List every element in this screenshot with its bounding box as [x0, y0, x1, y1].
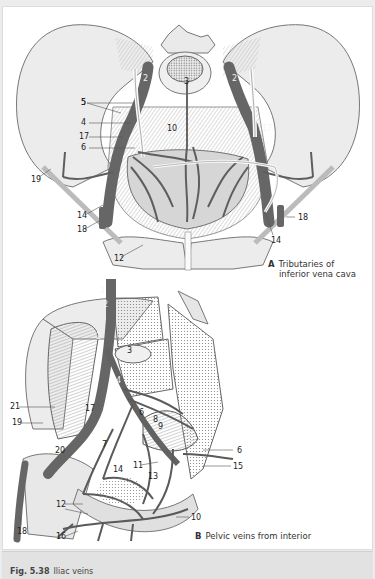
figure-b-title: Pelvic veins from interior: [205, 531, 311, 541]
callout-label: 14: [271, 237, 281, 245]
figure-caption-bar: Fig. 5.38Iliac veins: [2, 551, 373, 579]
pelvis-sagittal-illustration: [3, 279, 374, 551]
callout-label: 4: [116, 377, 121, 385]
figure-b-letter: B: [195, 531, 201, 541]
callout-label: 10: [167, 125, 177, 133]
callout-label: 11: [133, 462, 143, 470]
figure-a-title-line1: Tributaries of: [279, 259, 335, 269]
callout-label: 17: [79, 133, 89, 141]
figure-a-tributaries-ivc: 2235544101717116191418181412 ATributarie…: [3, 7, 374, 279]
callout-label: 2: [143, 75, 148, 83]
callout-label: 3: [184, 78, 189, 86]
callout-label: 2: [96, 333, 101, 341]
callout-label: 10: [191, 514, 201, 522]
callout-label: 3: [127, 347, 132, 355]
callout-label: 16: [56, 533, 66, 541]
pelvis-anterior-illustration: [3, 7, 374, 279]
callout-label: 17: [262, 125, 272, 133]
figure-b-pelvic-veins-interior: 1223421176891972061114151312101816 BPelv…: [3, 279, 374, 551]
callout-label: 21: [10, 403, 20, 411]
callout-label: 6: [139, 409, 144, 417]
callout-label: 4: [81, 119, 86, 127]
callout-label: 2: [232, 75, 237, 83]
figure-title: Iliac veins: [54, 567, 94, 576]
figure-panel: 2235544101717116191418181412 ATributarie…: [2, 6, 373, 550]
figure-a-letter: A: [268, 259, 275, 269]
callout-label: 1: [100, 287, 105, 295]
callout-label: 17: [85, 405, 95, 413]
callout-label: 5: [81, 99, 86, 107]
callout-label: 13: [148, 473, 158, 481]
callout-label: 14: [77, 212, 87, 220]
callout-label: 12: [56, 501, 66, 509]
callout-label: 20: [55, 447, 65, 455]
callout-label: 9: [158, 423, 163, 431]
figure-a-subcaption: ATributaries of inferior vena cava: [268, 260, 356, 280]
callout-label: 14: [113, 466, 123, 474]
figure-caption: Fig. 5.38Iliac veins: [10, 567, 93, 576]
callout-label: 18: [77, 226, 87, 234]
callout-label: 6: [237, 447, 242, 455]
figure-number: Fig. 5.38: [10, 567, 50, 576]
callout-label: 7: [102, 441, 107, 449]
callout-label: 6: [81, 144, 86, 152]
callout-label: 4: [233, 113, 238, 121]
callout-label: 12: [114, 255, 124, 263]
callout-label: 15: [233, 463, 243, 471]
figure-b-subcaption: BPelvic veins from interior: [195, 532, 311, 542]
callout-label: 18: [298, 214, 308, 222]
callout-label: 11: [167, 138, 177, 146]
callout-label: 19: [31, 176, 41, 184]
callout-label: 2: [103, 301, 108, 309]
callout-label: 19: [12, 419, 22, 427]
callout-label: 18: [17, 528, 27, 536]
